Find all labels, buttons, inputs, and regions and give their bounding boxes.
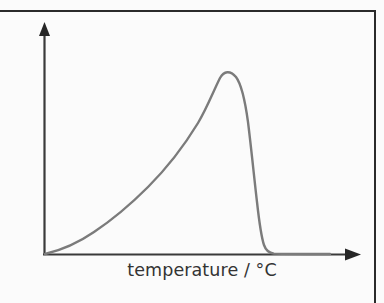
photosynthesis-rate-curve [45,72,330,254]
arrow-up-icon [39,22,50,36]
x-axis-label: temperature / °C [44,260,360,280]
photosynthesis-temperature-chart: temperature / °C rate of photosynthesis [0,0,384,303]
chart-plot-area [0,0,384,303]
arrow-right-icon [345,249,361,261]
